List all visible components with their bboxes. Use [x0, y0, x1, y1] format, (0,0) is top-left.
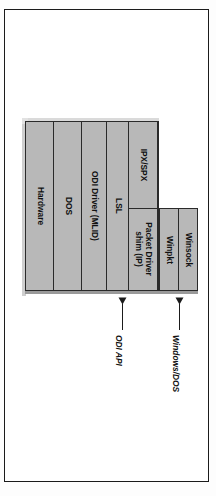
layer-subpanel-ipx-spx[interactable]: IPX/SPX — [129, 122, 157, 209]
annotation-label-windows-dos: Windows/DOS — [171, 335, 181, 392]
layer-label-wrap: IPX/SPX — [129, 122, 157, 208]
layer-panel-winsock[interactable]: Winsock — [179, 209, 197, 290]
layer-panel-dos[interactable]: DOS — [54, 122, 82, 290]
layer-panel-lsl[interactable]: LSL — [107, 122, 129, 290]
layer-label-wrap: LSL — [107, 122, 128, 290]
layer-label-wrap: Winsock — [179, 209, 197, 290]
layer-label-packet-driver-shim: Packet Driver shim (IP) — [133, 212, 152, 286]
layer-panel-protocols[interactable]: IPX/SPX Packet Driver shim (IP) — [129, 122, 158, 290]
layer-label-wrap: Winpkt — [160, 209, 178, 290]
stack-diagram-block: Hardware DOS ODI Driver (MLID) LSL — [22, 118, 198, 296]
layer-row-lower: Winpkt Winsock — [159, 208, 198, 291]
layer-label-dos: DOS — [63, 197, 73, 215]
page-background: Hardware DOS ODI Driver (MLID) LSL — [0, 0, 216, 496]
arrow-line-icon — [122, 304, 123, 330]
layer-label-lsl: LSL — [113, 198, 123, 214]
annotation-label-odi-api: ODI API — [114, 335, 124, 366]
layer-label-wrap: ODI Driver (MLID) — [82, 122, 106, 290]
layer-label-wrap: Packet Driver shim (IP) — [129, 209, 157, 290]
layer-label-wrap: Hardware — [26, 122, 53, 290]
arrow-line-icon — [179, 304, 180, 330]
layer-panel-hardware[interactable]: Hardware — [26, 122, 54, 290]
layer-subpanel-packet-driver-shim[interactable]: Packet Driver shim (IP) — [129, 209, 157, 290]
layer-label-hardware: Hardware — [35, 187, 45, 225]
layer-label-odi-driver: ODI Driver (MLID) — [89, 171, 99, 241]
annotation-odi-api — [115, 298, 131, 312]
layer-label-winpkt: Winpkt — [164, 236, 174, 264]
layer-panel-odi-driver[interactable]: ODI Driver (MLID) — [82, 122, 107, 290]
annotation-windows-dos — [172, 298, 188, 312]
figure-frame: Hardware DOS ODI Driver (MLID) LSL — [4, 9, 209, 482]
layer-label-ipx-spx: IPX/SPX — [138, 149, 148, 182]
layer-label-winsock: Winsock — [183, 232, 193, 266]
layer-panel-winpkt[interactable]: Winpkt — [160, 209, 179, 290]
layer-label-wrap: DOS — [54, 122, 81, 290]
layer-row-upper: Hardware DOS ODI Driver (MLID) LSL — [25, 121, 159, 291]
